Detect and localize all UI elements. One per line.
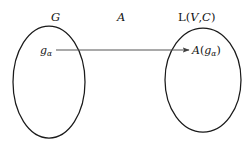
image-element-subscript: α — [211, 49, 216, 58]
codomain-prefix-symbol: L — [178, 10, 186, 24]
image-element-label: A(gα) — [192, 45, 221, 56]
source-element-subscript: α — [47, 49, 52, 58]
map-operator-symbol: A — [117, 10, 125, 24]
codomain-arg2-symbol: C — [202, 10, 211, 24]
domain-set-symbol: G — [51, 10, 60, 24]
domain-set-label: G — [51, 12, 60, 24]
domain-set-ellipse — [13, 26, 85, 138]
source-element-symbol: g — [40, 44, 47, 57]
codomain-close-paren: ) — [211, 10, 216, 24]
mapping-diagram: G A L(V,C) gα A(gα) — [0, 0, 251, 152]
map-operator-label: A — [117, 12, 125, 24]
image-operator-symbol: A — [192, 44, 200, 57]
codomain-set-label: L(V,C) — [178, 12, 215, 24]
source-element-label: gα — [40, 45, 52, 56]
image-close-paren: ) — [216, 44, 220, 57]
